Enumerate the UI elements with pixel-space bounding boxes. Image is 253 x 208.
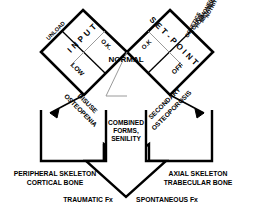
center-arrow-line-1: COMBINED bbox=[108, 119, 144, 126]
center-normal-label: NORMAL bbox=[108, 55, 143, 64]
fracture-right-label: SPONTANEOUS Fx bbox=[136, 196, 198, 203]
fracture-left-label: TRAUMATIC Fx bbox=[63, 196, 113, 203]
center-arrow-label: COMBINED FORMS, SENILITY bbox=[108, 119, 144, 142]
input-box bbox=[41, 10, 127, 95]
setpoint-influences: NUTRITION METABOLISM HORMONES TOXICS GEN… bbox=[184, 0, 223, 38]
outcome-right-line-2: TRABECULAR BONE bbox=[164, 179, 233, 186]
branch-left-label: DISUSE OSTEOPENIA bbox=[63, 92, 99, 128]
outcome-left-label: PERIPHERAL SKELETON CORTICAL BONE bbox=[14, 170, 97, 186]
outcome-right-line-1: AXIAL SKELETON bbox=[168, 170, 227, 177]
branch-right-label: SECONDARY OSTEOPOROSIS bbox=[147, 86, 193, 132]
outcome-left-line-2: CORTICAL BONE bbox=[27, 179, 84, 186]
center-arrow-line-2: FORMS, bbox=[113, 127, 139, 135]
outcome-left-line-1: PERIPHERAL SKELETON bbox=[14, 170, 97, 177]
center-arrow-line-3: SENILITY bbox=[111, 135, 141, 142]
outcome-right-label: AXIAL SKELETON TRABECULAR BONE bbox=[164, 170, 233, 186]
diagram-canvas: UNLOAD I N P U T O.K. LOW S E T - P O I … bbox=[0, 0, 253, 208]
